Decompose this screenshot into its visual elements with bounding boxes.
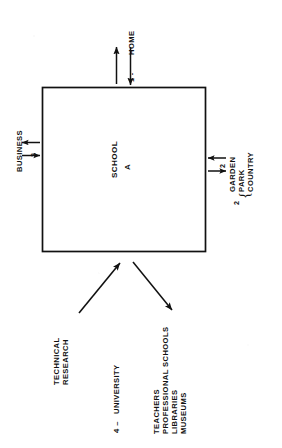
label-university-number: 4 – [112, 421, 121, 433]
label-technical-text: TECHNICAL [52, 338, 61, 385]
label-country: COUNTRY [247, 152, 256, 192]
label-recreation-outer-number-text: 2 [232, 201, 241, 205]
arrow-diagonal-out [133, 262, 172, 310]
label-home-number: 1 - [128, 72, 136, 82]
label-recreation-outer-number: 2 [233, 201, 241, 205]
label-home-number-text: 1 - [127, 72, 136, 82]
label-research: RESEARCH [62, 339, 71, 385]
diagram-canvas [0, 0, 282, 448]
label-libraries-text: LIBRARIES [170, 389, 179, 434]
school-label-text: SCHOOL [110, 141, 119, 178]
label-recreation-number-text: 2 [218, 164, 227, 168]
label-business-text: BUSINESS [15, 130, 24, 172]
label-university-name: UNIVERSITY [113, 364, 122, 414]
label-country-text: COUNTRY [246, 152, 255, 192]
label-research-text: RESEARCH [61, 339, 70, 385]
label-business-number: 3 [30, 153, 38, 157]
label-university: 4 – [113, 421, 122, 433]
label-recreation-number: 2 [219, 164, 227, 168]
label-home: HOME [128, 31, 137, 55]
school-box-label-line2: A [123, 164, 133, 170]
recreation-brace-glyph: { [236, 192, 252, 199]
school-box-label-line1: SCHOOL [110, 141, 120, 178]
arrow-diagonal-in [79, 263, 120, 313]
label-university-text: UNIVERSITY [112, 364, 121, 414]
label-business: BUSINESS [16, 130, 25, 172]
recreation-brace: { [236, 192, 253, 199]
label-museums: MUSEUMS [180, 392, 189, 434]
label-museums-text: MUSEUMS [179, 392, 188, 434]
label-park-text: PARK [237, 169, 246, 192]
label-professional-schools-text: PROFESSIONAL SCHOOLS [161, 327, 170, 434]
label-business-number-text: 3 [29, 153, 38, 157]
label-home-text: HOME [127, 31, 136, 55]
school-sublabel-text: A [123, 164, 132, 170]
label-garden-text: GARDEN [228, 157, 237, 192]
label-teachers-text: TEACHERS [152, 389, 161, 434]
